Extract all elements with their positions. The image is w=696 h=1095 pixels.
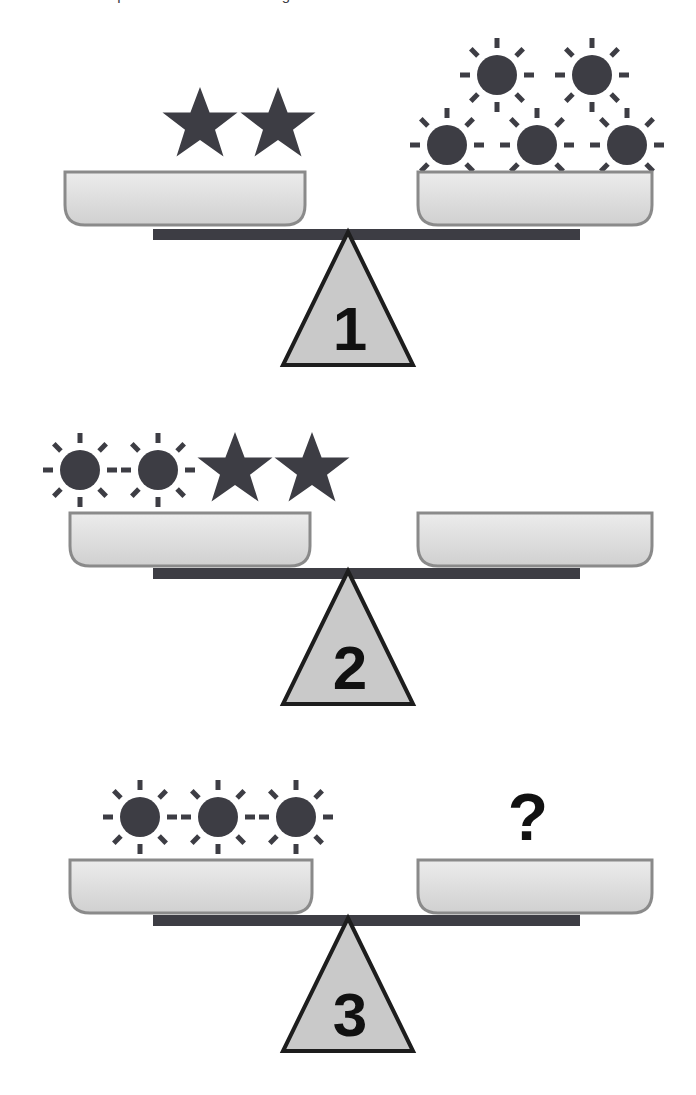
moon-icon (429, 427, 472, 513)
scale-2-left-pan (70, 513, 310, 566)
scale-3-right-pan (418, 860, 652, 913)
sun-icon (460, 38, 534, 112)
moon-icon (41, 774, 84, 860)
scale-2-beam (153, 568, 580, 579)
scale-1-right-items (410, 38, 664, 182)
sun-icon (259, 780, 333, 854)
scale-1-right-pan (418, 172, 652, 225)
scale-1-left-items (76, 82, 316, 168)
balance-scale-2: 2 (0, 408, 696, 728)
sun-icon (181, 780, 255, 854)
clipped-header-text: A balance scale puzzle · find the missin… (0, 0, 696, 4)
balance-scale-1: 1 (0, 20, 696, 380)
moon-icon (76, 82, 119, 168)
unknown-question-mark: ? (508, 780, 548, 854)
star-icon (198, 432, 273, 502)
sun-icon (555, 38, 629, 112)
balance-puzzle-root: A balance scale puzzle · find the missin… (0, 0, 696, 1095)
scale-3-left-pan (70, 860, 312, 913)
star-icon (241, 87, 316, 157)
balance-scale-3-svg: ? 3 (0, 755, 696, 1085)
scale-2-right-items (429, 427, 584, 513)
scale-3-beam (153, 915, 580, 926)
scale-2-right-pan (418, 513, 652, 566)
star-icon (275, 432, 350, 502)
scale-3-left-items (41, 774, 333, 860)
scale-1-left-pan (65, 172, 305, 225)
star-icon (163, 87, 238, 157)
sun-icon (121, 433, 195, 507)
scale-1-number: 1 (333, 294, 367, 363)
scale-1-beam (153, 229, 580, 240)
balance-scale-3: ? 3 (0, 755, 696, 1085)
scale-2-number: 2 (333, 633, 367, 702)
scale-3-number: 3 (333, 980, 367, 1049)
balance-scale-2-svg: 2 (0, 408, 696, 728)
scale-2-left-items (43, 432, 350, 507)
sun-icon (43, 433, 117, 507)
moon-icon (541, 427, 584, 513)
balance-scale-1-svg: 1 (0, 20, 696, 380)
sun-icon (103, 780, 177, 854)
